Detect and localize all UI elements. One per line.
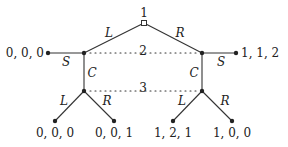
right-stop-action-label: S (217, 55, 225, 69)
info-set-2-label: 2 (139, 44, 147, 58)
p3-right-L-label: L (177, 94, 186, 108)
right-stop-payoff: 1, 1, 2 (241, 46, 279, 60)
payoff-leaf-4: 1, 0, 0 (213, 126, 251, 140)
payoff-leaf-3: 1, 2, 1 (154, 126, 192, 140)
p2-left-node (82, 51, 86, 55)
left-stop-payoff: 0, 0, 0 (6, 46, 44, 60)
root-action-left-label: L (104, 26, 113, 40)
info-set-3-label: 3 (139, 81, 147, 95)
p3-left-L-label: L (59, 94, 68, 108)
leaf-left-stop (46, 51, 50, 55)
root-player-label: 1 (140, 6, 148, 20)
edge-root-left (84, 23, 144, 53)
leaf-4 (230, 119, 234, 123)
p2-right-node (200, 51, 204, 55)
p3-left-R-label: R (101, 94, 111, 108)
root-action-right-label: R (174, 26, 184, 40)
edge-root-right (144, 23, 202, 53)
left-stop-action-label: S (62, 55, 70, 69)
payoff-leaf-1: 0, 0, 0 (36, 126, 74, 140)
leaf-3 (171, 119, 175, 123)
p3-right-R-label: R (219, 94, 229, 108)
payoff-leaf-2: 0, 0, 1 (95, 126, 133, 140)
root-node (142, 21, 147, 26)
leaf-2 (112, 119, 116, 123)
leaf-1 (53, 119, 57, 123)
game-tree-diagram: 1 L R 2 3 S S C C 0, 0, 0 1, 1, 2 L R L … (0, 0, 288, 147)
p3-right-node (200, 89, 204, 93)
p3-left-node (82, 89, 86, 93)
leaf-right-stop (234, 51, 238, 55)
right-continue-action-label: C (189, 66, 198, 80)
left-continue-action-label: C (87, 66, 96, 80)
